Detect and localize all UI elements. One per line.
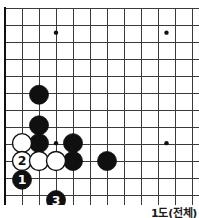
diagram-caption: 1도(전체): [151, 207, 197, 218]
caption-row: 1도(전체): [0, 203, 199, 218]
star-point-center-left: [54, 141, 58, 145]
white-stone-a[interactable]: [13, 134, 32, 153]
go-board: 213: [0, 0, 199, 205]
black-stone-b[interactable]: [30, 116, 49, 135]
black-stone-a[interactable]: [30, 85, 49, 104]
star-point-center-right: [164, 141, 168, 145]
black-stone-disc: [64, 134, 83, 153]
black-stone-disc: [30, 85, 49, 104]
board-stones: 213: [13, 85, 117, 205]
black-stone-e[interactable]: [64, 152, 83, 171]
black-stone-move-1[interactable]: 1: [13, 170, 32, 189]
black-stone-f[interactable]: [98, 152, 117, 171]
black-stone-disc: [30, 134, 49, 153]
black-stone-d[interactable]: [64, 134, 83, 153]
white-stone-b[interactable]: [30, 152, 49, 171]
star-point-upper-right: [164, 30, 168, 34]
black-stone-disc: [98, 152, 117, 171]
move-number-label: 1: [18, 172, 27, 187]
go-diagram-figure: 213 1도(전체): [0, 0, 199, 218]
white-stone-disc: [13, 134, 32, 153]
white-stone-disc: [47, 152, 66, 171]
black-stone-disc: [30, 116, 49, 135]
white-stone-move-2[interactable]: 2: [13, 152, 32, 171]
white-stone-c[interactable]: [47, 152, 66, 171]
board-star-points: [54, 30, 169, 145]
black-stone-c[interactable]: [30, 134, 49, 153]
board-grid: [5, 8, 199, 205]
black-stone-disc: [64, 152, 83, 171]
white-stone-disc: [30, 152, 49, 171]
star-point-upper-left: [54, 30, 58, 34]
board-border: [4, 7, 199, 205]
move-number-label: 2: [18, 153, 27, 168]
go-board-canvas: 213: [0, 0, 199, 205]
